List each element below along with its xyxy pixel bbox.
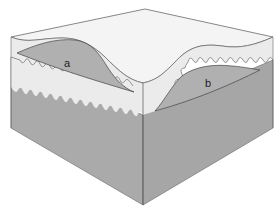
label-b: b — [205, 77, 211, 89]
label-a: a — [64, 57, 71, 69]
block-diagram: a b — [0, 0, 280, 213]
